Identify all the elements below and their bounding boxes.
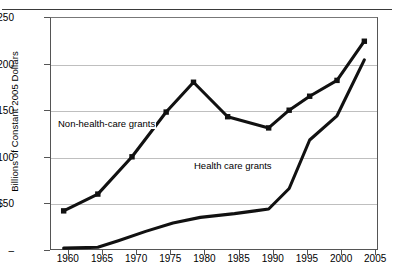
gridline: [51, 204, 377, 205]
x-tick-mark: [273, 250, 274, 255]
x-tick-mark: [170, 250, 171, 255]
x-tick-mark: [136, 250, 137, 255]
y-axis-title: Billions of Constant 2005 Dollars: [9, 22, 20, 222]
gridline: [51, 158, 377, 159]
x-tick-mark: [307, 250, 308, 255]
y-tick-label: $150: [0, 105, 14, 116]
y-tick-label: $250: [0, 12, 14, 23]
series-label-health: Health care grants: [193, 160, 273, 171]
gridline: [51, 65, 377, 66]
x-tick-label: 2005: [352, 253, 395, 264]
gridline: [51, 111, 377, 112]
y-tick-label: $50: [0, 198, 14, 209]
y-tick-label-zero: –: [0, 245, 14, 256]
plot-area: [50, 17, 378, 250]
x-tick-mark: [68, 250, 69, 255]
chart-figure: Billions of Constant 2005 Dollars $250 $…: [0, 0, 395, 273]
x-tick-mark: [375, 250, 376, 255]
y-tick-label: $200: [0, 58, 14, 69]
x-tick-mark: [204, 250, 205, 255]
x-tick-mark: [341, 250, 342, 255]
x-tick-mark: [102, 250, 103, 255]
series-label-nonhealth: Non-health-care grants: [57, 118, 156, 129]
y-tick-mark: [44, 250, 50, 251]
y-tick-label: $100: [0, 151, 14, 162]
top-rule: [2, 9, 392, 10]
x-tick-mark: [239, 250, 240, 255]
